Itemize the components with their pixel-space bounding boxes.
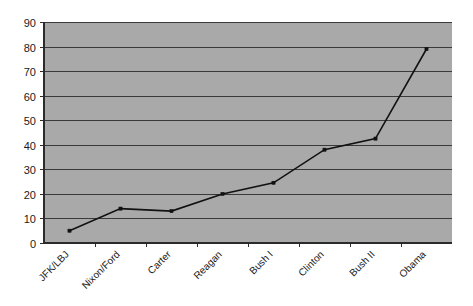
- y-axis-tick-label: 30: [24, 164, 36, 176]
- y-axis-tick-label: 70: [24, 66, 36, 78]
- plot-area-background: [44, 22, 452, 243]
- data-point-marker: [425, 47, 428, 50]
- y-axis-tick-label: 90: [24, 17, 36, 29]
- line-chart: 0102030405060708090 JFK/LBJNixon/FordCar…: [0, 0, 473, 306]
- chart-container: 0102030405060708090 JFK/LBJNixon/FordCar…: [0, 0, 473, 306]
- y-axis-tick-label: 80: [24, 42, 36, 54]
- data-point-marker: [119, 207, 122, 210]
- data-point-marker: [221, 192, 224, 195]
- data-point-marker: [272, 181, 275, 184]
- y-axis-tick-label: 10: [24, 213, 36, 225]
- y-axis-tick-label: 0: [30, 238, 36, 250]
- data-point-marker: [323, 148, 326, 151]
- data-point-marker: [374, 137, 377, 140]
- y-axis-tick-label: 50: [24, 115, 36, 127]
- y-axis-tick-label: 60: [24, 91, 36, 103]
- y-axis-tick-label: 20: [24, 189, 36, 201]
- data-point-marker: [68, 229, 71, 232]
- data-point-marker: [170, 210, 173, 213]
- y-axis-tick-label: 40: [24, 140, 36, 152]
